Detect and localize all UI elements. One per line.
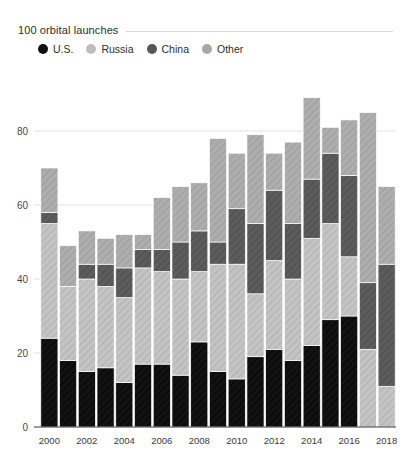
bar-segment[interactable] [78,231,95,264]
bar-segment[interactable] [97,264,114,286]
bar-segment[interactable] [41,168,58,212]
bar-segment[interactable] [266,261,283,350]
bar-segment[interactable] [359,349,376,427]
y-tick-label: 40 [17,274,29,285]
bar-segment[interactable] [247,294,264,357]
bar-segment[interactable] [153,272,170,365]
x-tick-label: 2004 [114,435,135,446]
bar-segment[interactable] [284,142,301,223]
bar-segment[interactable] [191,342,208,427]
bar-segment[interactable] [191,183,208,231]
bar-segment[interactable] [378,386,395,427]
bar-segment[interactable] [78,372,95,428]
bar-segment[interactable] [228,209,245,265]
bar-segment[interactable] [191,272,208,342]
x-tick-label: 2012 [264,435,285,446]
bar-segment[interactable] [60,286,77,360]
bar-segment[interactable] [284,224,301,280]
x-tick-label: 2014 [301,435,322,446]
bar-segment[interactable] [378,264,395,386]
y-axis-ticks: 020406080 [17,126,29,433]
x-tick-label: 2000 [39,435,60,446]
bar-segment[interactable] [153,249,170,271]
bar-segment[interactable] [247,357,264,427]
x-tick-label: 2016 [339,435,360,446]
y-tick-label: 60 [17,200,29,211]
stacked-bar-chart-svg: 020406080 200020022004200620082010201220… [0,0,407,475]
bar-segment[interactable] [134,268,151,364]
bar-segment[interactable] [284,279,301,360]
bar-segment[interactable] [172,242,189,279]
bar-segment[interactable] [60,246,77,287]
bar-segment[interactable] [228,264,245,379]
bar-segment[interactable] [134,249,151,268]
bar-segment[interactable] [266,190,283,260]
y-tick-label: 0 [22,422,28,433]
y-tick-label: 20 [17,348,29,359]
bar-segment[interactable] [116,383,133,427]
bar-segment[interactable] [228,153,245,209]
bar-segment[interactable] [322,320,339,427]
x-axis-ticks: 2000200220042006200820102012201420162018 [39,435,397,446]
bar-segment[interactable] [341,120,358,175]
bar-segment[interactable] [303,346,320,427]
x-tick-label: 2010 [226,435,247,446]
bar-segment[interactable] [97,286,114,367]
bar-segment[interactable] [191,231,208,272]
bar-segment[interactable] [303,98,320,179]
bar-segment[interactable] [41,338,58,427]
x-tick-label: 2008 [189,435,210,446]
x-tick-label: 2018 [376,435,397,446]
bar-segment[interactable] [359,283,376,350]
bar-segment[interactable] [172,375,189,427]
bar-segment[interactable] [378,187,395,265]
y-tick-label: 80 [17,126,29,137]
bar-segment[interactable] [41,224,58,339]
x-tick-label: 2002 [76,435,97,446]
bar-segment[interactable] [97,238,114,264]
bar-segment[interactable] [322,224,339,320]
bar-segment[interactable] [116,235,133,268]
bar-segment[interactable] [78,279,95,372]
bars-group [41,98,395,427]
bar-segment[interactable] [116,298,133,383]
bar-segment[interactable] [228,379,245,427]
bar-segment[interactable] [209,372,226,428]
bar-segment[interactable] [341,257,358,316]
bar-segment[interactable] [266,349,283,427]
bar-segment[interactable] [303,238,320,345]
bar-segment[interactable] [97,368,114,427]
bar-segment[interactable] [41,212,58,223]
x-tick-label: 2006 [151,435,172,446]
bar-segment[interactable] [266,153,283,190]
chart-plot-area: 020406080 200020022004200620082010201220… [0,0,407,475]
bar-segment[interactable] [247,135,264,224]
bar-segment[interactable] [284,360,301,427]
bar-segment[interactable] [341,316,358,427]
bar-segment[interactable] [341,175,358,256]
bar-segment[interactable] [172,279,189,375]
bar-segment[interactable] [116,268,133,298]
bar-segment[interactable] [322,153,339,223]
bar-segment[interactable] [134,364,151,427]
bar-segment[interactable] [209,138,226,242]
bar-segment[interactable] [209,242,226,264]
bar-segment[interactable] [209,264,226,371]
bar-segment[interactable] [247,224,264,294]
bar-segment[interactable] [172,187,189,243]
bar-segment[interactable] [153,198,170,250]
bar-segment[interactable] [78,264,95,279]
bar-segment[interactable] [60,360,77,427]
bar-segment[interactable] [153,364,170,427]
bar-segment[interactable] [322,127,339,153]
bar-segment[interactable] [359,113,376,283]
bar-segment[interactable] [134,235,151,250]
bar-segment[interactable] [303,179,320,238]
